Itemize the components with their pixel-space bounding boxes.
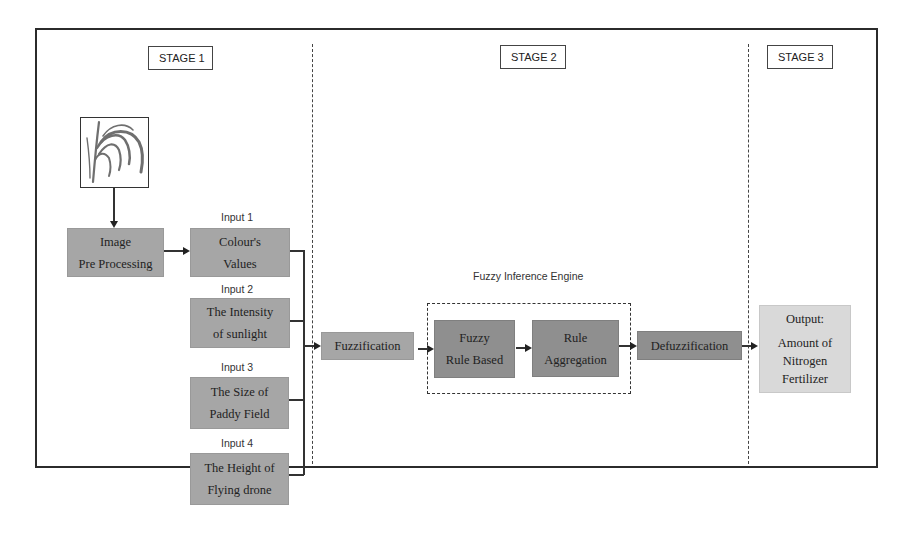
aggregation-line1: Rule (564, 327, 588, 349)
rule-aggregation-box: Rule Aggregation (532, 320, 619, 377)
output-line3: Fertilizer (782, 370, 828, 388)
arrow-right-icon (314, 342, 321, 350)
stage-1-label: STAGE 1 (148, 46, 213, 70)
rule-based-line2: Rule Based (446, 349, 503, 371)
output-line1: Amount of (778, 334, 833, 352)
arrow-down-icon (110, 221, 118, 228)
stage-divider-2 (748, 44, 749, 464)
fuzzification-label: Fuzzification (335, 335, 401, 357)
defuzzification-box: Defuzzification (637, 331, 742, 360)
input-1-line2: Values (223, 253, 256, 275)
stage-2-label: STAGE 2 (500, 45, 566, 69)
input-3-line2: Paddy Field (209, 403, 269, 425)
stage-3-label: STAGE 3 (767, 45, 833, 69)
connector-input1 (290, 250, 304, 252)
input-4-line1: The Height of (204, 457, 274, 479)
connector-bus (303, 250, 305, 475)
rule-based-line1: Fuzzy (459, 327, 490, 349)
rice-plant-icon (81, 118, 147, 186)
input-4-line2: Flying drone (207, 479, 271, 501)
connector-input2 (290, 320, 304, 322)
input-3-box: The Size of Paddy Field (190, 377, 289, 429)
connector-input4 (289, 474, 304, 476)
arrow-right-icon (183, 247, 190, 255)
input-3-line1: The Size of (211, 381, 269, 403)
aggregation-line2: Aggregation (544, 349, 606, 371)
output-line2: Nitrogen (783, 352, 827, 370)
input-2-box: The Intensity of sunlight (190, 298, 290, 348)
fuzzy-rule-based-box: Fuzzy Rule Based (434, 320, 515, 378)
preprocess-line2: Pre Processing (79, 253, 153, 275)
output-box: Output: Amount of Nitrogen Fertilizer (759, 305, 851, 393)
preprocess-line1: Image (100, 231, 131, 253)
defuzzification-label: Defuzzification (651, 335, 729, 357)
connector-preprocess-to-input1 (164, 250, 184, 252)
input-4-box: The Height of Flying drone (190, 453, 289, 505)
arrow-right-icon (751, 342, 758, 350)
fuzzification-box: Fuzzification (321, 332, 414, 360)
connector-input3 (289, 399, 304, 401)
input-1-box: Colour's Values (190, 228, 290, 277)
connector-image-to-preprocess (113, 188, 115, 221)
input-3-label: Input 3 (221, 361, 253, 373)
output-title: Output: (786, 310, 824, 328)
input-2-line1: The Intensity (207, 301, 273, 323)
input-2-line2: of sunlight (213, 323, 267, 345)
input-4-label: Input 4 (221, 437, 253, 449)
arrow-right-icon (630, 342, 637, 350)
arrow-right-icon (525, 344, 532, 352)
input-1-line1: Colour's (219, 231, 261, 253)
image-preprocessing-box: Image Pre Processing (67, 228, 164, 277)
stage-divider-1 (312, 44, 313, 464)
fuzzy-inference-engine-label: Fuzzy Inference Engine (473, 270, 583, 282)
input-2-label: Input 2 (221, 283, 253, 295)
rice-plant-image (80, 117, 149, 188)
input-1-label: Input 1 (221, 211, 253, 223)
